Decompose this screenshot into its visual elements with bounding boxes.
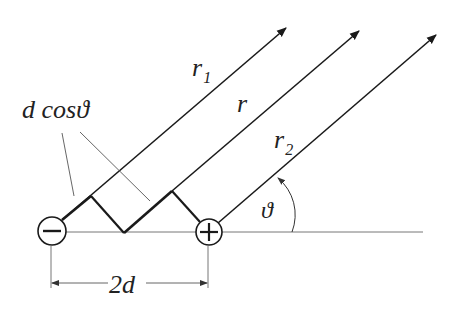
ray-r1 xyxy=(62,28,286,220)
label-r2: r2 xyxy=(274,125,293,158)
label-theta: ϑ xyxy=(261,197,274,223)
projection-line-right xyxy=(172,191,200,222)
projection-line-left xyxy=(91,196,124,233)
dipole-diagram: r1 r r2 d cosϑ ϑ 2d xyxy=(0,0,458,310)
path-difference-left xyxy=(62,196,91,220)
label-separation: 2d xyxy=(109,270,136,299)
label-r1: r1 xyxy=(192,53,211,86)
ray-r2 xyxy=(218,35,436,223)
leader-line-2 xyxy=(80,132,150,201)
negative-charge xyxy=(38,217,66,245)
label-dcos-theta: d cosϑ xyxy=(22,95,90,124)
label-r: r xyxy=(237,89,248,118)
ray-r-bold-segment xyxy=(124,191,172,233)
angle-arc xyxy=(278,178,295,232)
positive-charge xyxy=(196,219,222,245)
leader-line-1 xyxy=(62,133,74,196)
